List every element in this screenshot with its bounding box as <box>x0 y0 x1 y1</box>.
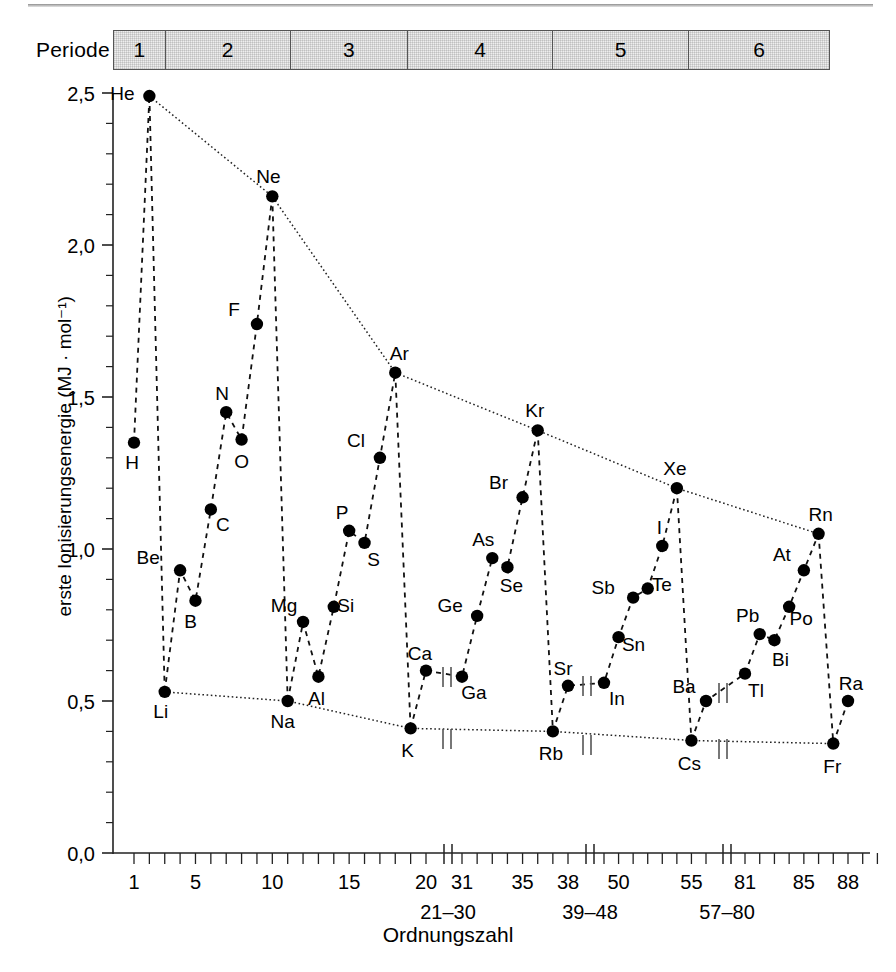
element-label-Tl: Tl <box>748 680 764 701</box>
data-point-Li[interactable] <box>159 686 171 698</box>
period-drop-line <box>677 488 692 740</box>
x-axis-gap-label: 21–30 <box>420 901 476 923</box>
period-drop-line <box>272 196 287 701</box>
data-point-Ne[interactable] <box>266 190 278 202</box>
period-drop-line <box>819 534 834 744</box>
element-label-Pb: Pb <box>736 605 759 626</box>
x-tick-label: 1 <box>128 871 139 893</box>
data-point-He[interactable] <box>143 90 155 102</box>
data-point-F[interactable] <box>251 318 263 330</box>
data-point-Ar[interactable] <box>389 366 401 378</box>
data-point-N[interactable] <box>220 406 232 418</box>
element-label-Xe: Xe <box>663 458 686 479</box>
data-point-Ba[interactable] <box>700 695 712 707</box>
element-label-B: B <box>184 611 197 632</box>
data-points: HHeLiBeBCNOFNeNaMgAlSiPSClArKCaGaGeAsSeB… <box>110 83 863 777</box>
period-drop-line <box>395 373 410 729</box>
element-label-Fr: Fr <box>823 756 842 777</box>
element-label-Ga: Ga <box>461 682 487 703</box>
data-point-Ca[interactable] <box>420 664 432 676</box>
data-point-P[interactable] <box>343 525 355 537</box>
x-tick-label: 20 <box>415 871 437 893</box>
data-point-Rn[interactable] <box>812 528 824 540</box>
element-label-Al: Al <box>308 688 325 709</box>
element-label-Ra: Ra <box>839 673 864 694</box>
data-point-Fr[interactable] <box>827 737 839 749</box>
element-label-Bi: Bi <box>772 649 789 670</box>
x-tick-label: 50 <box>607 871 629 893</box>
element-label-Po: Po <box>790 608 813 629</box>
data-point-H[interactable] <box>128 436 140 448</box>
element-label-Na: Na <box>271 711 296 732</box>
element-label-Br: Br <box>489 472 509 493</box>
data-point-K[interactable] <box>404 722 416 734</box>
data-point-Se[interactable] <box>501 561 513 573</box>
x-tick-label: 38 <box>557 871 579 893</box>
element-label-Ca: Ca <box>408 643 433 664</box>
period-trace <box>288 373 396 701</box>
period-trace <box>833 701 848 744</box>
element-label-Rb: Rb <box>539 743 563 764</box>
element-label-H: H <box>125 452 139 473</box>
chart-plot-area: 0,00,51,01,52,02,51510152031353850558185… <box>0 0 896 972</box>
element-label-Cs: Cs <box>678 753 701 774</box>
data-point-O[interactable] <box>235 433 247 445</box>
data-point-B[interactable] <box>189 594 201 606</box>
data-point-Kr[interactable] <box>532 424 544 436</box>
element-label-Li: Li <box>153 701 168 722</box>
data-point-At[interactable] <box>798 564 810 576</box>
x-tick-label: 85 <box>793 871 815 893</box>
data-point-Bi[interactable] <box>768 634 780 646</box>
x-tick-label: 35 <box>511 871 533 893</box>
noble-gas-envelope-line <box>149 96 818 534</box>
data-point-I[interactable] <box>656 540 668 552</box>
data-point-Ra[interactable] <box>842 695 854 707</box>
data-point-Rb[interactable] <box>547 725 559 737</box>
element-label-Si: Si <box>337 595 354 616</box>
period-trace <box>165 196 273 692</box>
data-point-Na[interactable] <box>281 695 293 707</box>
data-point-S[interactable] <box>358 537 370 549</box>
element-label-K: K <box>401 740 414 761</box>
element-label-S: S <box>367 549 380 570</box>
y-axis-title: erste Ionisierungsenergie (MJ · mol⁻¹) <box>53 317 76 617</box>
y-tick-label: 2,0 <box>67 235 95 257</box>
data-point-Ge[interactable] <box>471 610 483 622</box>
element-label-I: I <box>657 517 662 538</box>
data-point-Mg[interactable] <box>297 616 309 628</box>
element-label-Cl: Cl <box>347 430 365 451</box>
data-point-Cl[interactable] <box>374 452 386 464</box>
y-tick-label: 0,0 <box>67 843 95 865</box>
x-axis-gap-label: 57–80 <box>699 901 755 923</box>
element-label-Sr: Sr <box>554 658 574 679</box>
element-label-Ge: Ge <box>437 595 462 616</box>
x-tick-label: 55 <box>680 871 702 893</box>
data-point-As[interactable] <box>486 552 498 564</box>
data-point-Sr[interactable] <box>562 680 574 692</box>
data-point-Sb[interactable] <box>627 591 639 603</box>
element-label-P: P <box>336 502 349 523</box>
element-label-Se: Se <box>500 575 523 596</box>
data-point-Cs[interactable] <box>685 734 697 746</box>
x-tick-label: 88 <box>837 871 859 893</box>
data-point-Pb[interactable] <box>754 628 766 640</box>
element-label-N: N <box>215 383 229 404</box>
y-tick-label: 2,5 <box>67 83 95 105</box>
period-drop-line <box>538 430 553 731</box>
element-label-Mg: Mg <box>271 595 297 616</box>
element-label-At: At <box>773 544 792 565</box>
element-label-As: As <box>472 529 494 550</box>
x-tick-label: 15 <box>338 871 360 893</box>
data-point-Xe[interactable] <box>671 482 683 494</box>
axes: 0,00,51,01,52,02,51510152031353850558185… <box>67 83 877 923</box>
element-label-Be: Be <box>136 547 159 568</box>
x-tick-label: 31 <box>451 871 473 893</box>
alkali-metal-envelope-line <box>165 692 834 744</box>
data-point-Al[interactable] <box>312 670 324 682</box>
data-point-Be[interactable] <box>174 564 186 576</box>
data-point-Br[interactable] <box>516 491 528 503</box>
element-label-Sb: Sb <box>592 577 615 598</box>
x-tick-label: 10 <box>261 871 283 893</box>
element-label-F: F <box>228 299 240 320</box>
data-point-Tl[interactable] <box>739 667 751 679</box>
